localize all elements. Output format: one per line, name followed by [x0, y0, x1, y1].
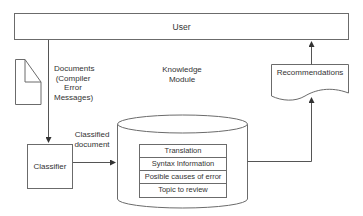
knowledge-module-label: Knowledge Module	[158, 65, 206, 84]
documents-label: Documents (Compiler Error Messages)	[54, 64, 92, 102]
documents-label-line: Messages)	[54, 93, 92, 103]
arrow-knowledge-to-recommendations	[248, 98, 312, 162]
classifier-box: Classifier	[27, 144, 73, 189]
classified-document-label: Classified document	[72, 130, 112, 149]
knowledge-item-possible-causes: Posible causes of error	[140, 171, 226, 184]
document-icon	[16, 60, 42, 105]
knowledge-item-syntax-information: Syntax Information	[140, 158, 226, 171]
documents-label-line: Documents	[54, 64, 92, 74]
knowledge-items-table: Translation Syntax Information Posible c…	[139, 144, 227, 198]
classified-document-label-line: Classified	[72, 130, 112, 140]
knowledge-item-translation: Translation	[140, 145, 226, 158]
documents-label-line: Error	[54, 83, 92, 93]
classifier-label: Classifier	[34, 162, 67, 171]
knowledge-item-topic-to-review: Topic to review	[140, 184, 226, 197]
recommendations-label: Recommendations	[271, 68, 349, 77]
user-label: User	[173, 22, 191, 32]
classified-document-label-line: document	[72, 140, 112, 150]
knowledge-module-label-line: Module	[158, 75, 206, 85]
documents-label-line: (Compiler	[54, 74, 92, 84]
knowledge-module-label-line: Knowledge	[158, 65, 206, 75]
user-box: User	[14, 13, 349, 40]
